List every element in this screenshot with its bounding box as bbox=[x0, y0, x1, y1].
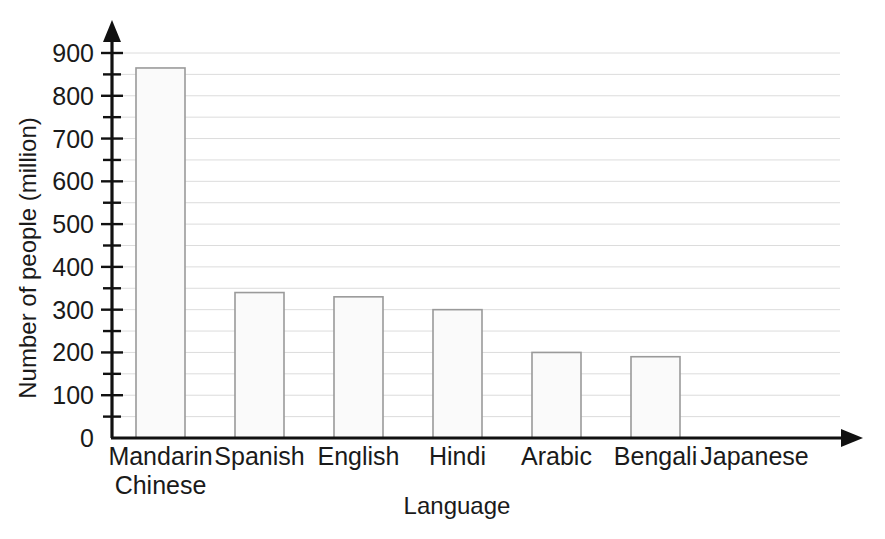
bar-chart-figure: 0100200300400500600700800900 MandarinChi… bbox=[0, 0, 885, 539]
x-axis-title: Language bbox=[404, 492, 511, 519]
y-axis-title: Number of people (million) bbox=[14, 117, 41, 398]
bar bbox=[235, 293, 284, 438]
y-axis-tick-label: 300 bbox=[52, 296, 94, 324]
y-axis-tick-label: 200 bbox=[52, 338, 94, 366]
x-axis-category-label-line: Bengali bbox=[614, 442, 697, 470]
x-axis-category-label-line: Arabic bbox=[521, 442, 592, 470]
x-axis-category-label-line: Mandarin bbox=[108, 442, 212, 470]
y-axis-tick-label: 800 bbox=[52, 82, 94, 110]
y-axis-tick-label: 400 bbox=[52, 253, 94, 281]
x-axis-category-label: Spanish bbox=[214, 442, 304, 470]
y-axis-tick-label: 500 bbox=[52, 210, 94, 238]
bar bbox=[631, 357, 680, 438]
x-axis-category-label-line: Hindi bbox=[429, 442, 486, 470]
x-axis-category-label-line: Chinese bbox=[115, 471, 207, 499]
x-axis-category-label: Hindi bbox=[429, 442, 486, 470]
bar bbox=[532, 352, 581, 438]
y-axis-tick-label: 0 bbox=[80, 424, 94, 452]
x-axis-category-label-line: Japanese bbox=[700, 442, 808, 470]
y-axis-tick-label: 600 bbox=[52, 167, 94, 195]
y-axis-tick-label: 900 bbox=[52, 39, 94, 67]
y-axis-tick-label: 700 bbox=[52, 125, 94, 153]
x-axis-category-label: English bbox=[318, 442, 400, 470]
x-axis-category-label: Arabic bbox=[521, 442, 592, 470]
x-axis-category-label-line: Spanish bbox=[214, 442, 304, 470]
chart-canvas: 0100200300400500600700800900 MandarinChi… bbox=[0, 0, 885, 539]
bar bbox=[334, 297, 383, 438]
x-axis-category-label: Bengali bbox=[614, 442, 697, 470]
x-axis-category-label: Japanese bbox=[700, 442, 808, 470]
y-axis-tick-label: 100 bbox=[52, 381, 94, 409]
x-axis-category-label: MandarinChinese bbox=[108, 442, 212, 499]
bar bbox=[433, 310, 482, 438]
bar bbox=[136, 68, 185, 438]
x-axis-category-label-line: English bbox=[318, 442, 400, 470]
